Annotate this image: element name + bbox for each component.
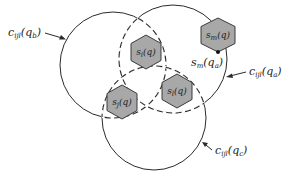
arrowhead-qb [59,35,66,40]
callout-qc: cijl(qc) [202,142,247,158]
arrow-qc [206,145,212,150]
label-circle-qa: cijl(qa) [249,65,282,79]
point-sm-qa [216,50,220,54]
coverage-diagram: si(q) sj(q) sl(q) sm(q) sm(qa) cijl(qb) … [0,0,296,175]
callout-qa: cijl(qa) [226,65,282,79]
arrow-qb [45,33,62,38]
arrowhead-qa [226,74,233,79]
callout-qb: cijl(qb) [8,26,66,40]
label-circle-qb: cijl(qb) [8,26,41,40]
server-sm: sm(q) [201,18,235,52]
label-point-sm-qa: sm(qa) [191,56,223,70]
label-circle-qc: cijl(qc) [215,144,247,158]
server-si: si(q) [131,35,161,69]
